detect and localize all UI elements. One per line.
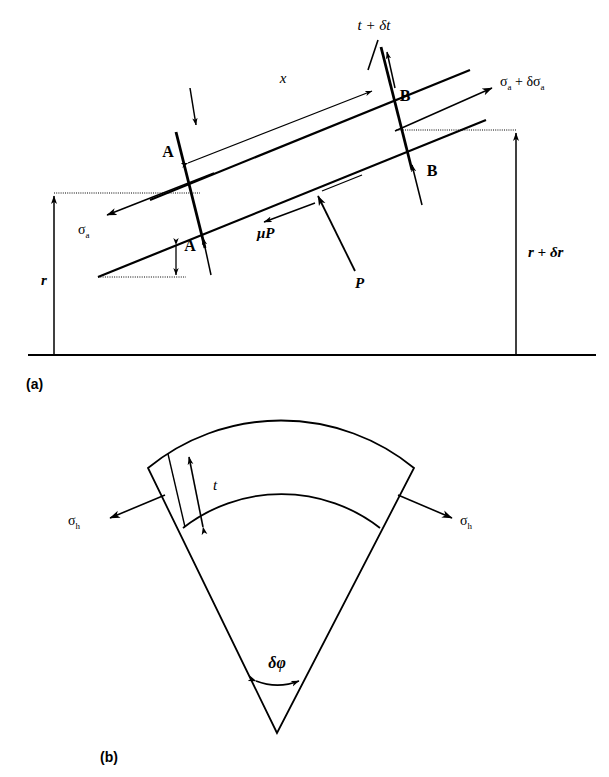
label-friction-force: μP bbox=[256, 225, 275, 241]
wall-upper-surface-line bbox=[150, 70, 470, 200]
sector-outline bbox=[148, 421, 414, 733]
hoop-stress-left-arrow bbox=[110, 495, 165, 518]
normal-force-P-arrow bbox=[318, 196, 355, 271]
label-corner-bottom-left-A: A bbox=[184, 237, 196, 254]
panel-b-diagram: σh σh t δφ (b) bbox=[0, 400, 609, 777]
axial-stress-left-arrow bbox=[107, 173, 214, 215]
figure-root: t + δt x σa σa + δσa μP P r r + δr A A B… bbox=[0, 0, 609, 777]
sector-inner-arc bbox=[183, 494, 380, 528]
element-left-face-AA bbox=[176, 132, 205, 248]
label-radius-inner: r bbox=[41, 272, 47, 288]
label-hoop-stress-left: σh bbox=[68, 513, 81, 531]
face-A-bottom-reaction-arrow bbox=[203, 238, 211, 275]
label-element-length: x bbox=[279, 70, 287, 86]
panel-b-caption: (b) bbox=[100, 749, 118, 765]
included-angle-arc bbox=[256, 681, 299, 685]
label-corner-bottom-right-B: B bbox=[427, 162, 438, 179]
thickness-increment-leader bbox=[368, 40, 378, 70]
wall-thickness-arrow bbox=[189, 457, 203, 527]
panel-a-diagram: t + δt x σa σa + δσa μP P r r + δr A A B… bbox=[0, 0, 609, 400]
label-wall-thickness: t bbox=[213, 477, 218, 493]
label-corner-top-right-B: B bbox=[400, 87, 411, 104]
face-B-bottom-reaction-arrow bbox=[412, 165, 422, 205]
label-corner-top-left-A: A bbox=[162, 143, 174, 160]
face-A-top-reaction-arrow bbox=[190, 88, 196, 125]
label-axial-stress-left: σa bbox=[78, 222, 90, 240]
label-normal-force: P bbox=[355, 275, 365, 291]
panel-a-caption: (a) bbox=[26, 376, 43, 392]
label-radius-outer: r + δr bbox=[528, 244, 564, 260]
element-length-dimension-arrow bbox=[188, 91, 372, 163]
label-axial-stress-right: σa + δσa bbox=[500, 74, 545, 92]
label-thickness-increment: t + δt bbox=[358, 17, 392, 33]
hoop-stress-right-arrow bbox=[398, 495, 452, 518]
element-right-face-BB bbox=[381, 47, 412, 170]
label-included-angle: δφ bbox=[268, 654, 286, 672]
label-hoop-stress-right: σh bbox=[460, 513, 473, 531]
